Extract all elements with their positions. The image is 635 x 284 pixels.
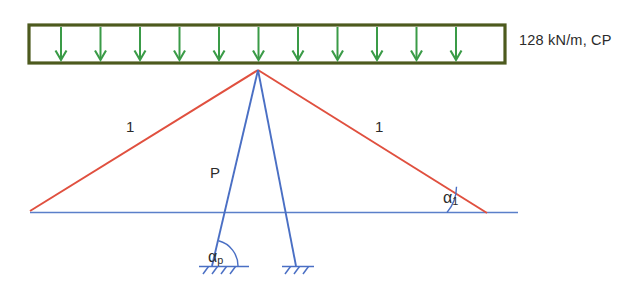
diagram-canvas: 128 kN/m, CP 1 1 P α1 αp (0, 0, 635, 284)
left-cable-length-label: 1 (126, 119, 134, 134)
alpha-1-label: α1 (443, 190, 458, 207)
right-cable-length-label: 1 (375, 119, 383, 134)
alpha-1-symbol: α (443, 189, 452, 206)
left-pin-support-icon (199, 267, 249, 275)
alpha-p-subscript: p (217, 254, 223, 266)
right-post-member (258, 70, 296, 266)
load-box-group (29, 25, 505, 63)
alpha-p-label: αp (208, 249, 223, 266)
alpha-1-subscript: 1 (452, 195, 458, 207)
post-label: P (210, 165, 220, 180)
right-pin-support-icon (282, 267, 314, 275)
load-magnitude-label: 128 kN/m, CP (519, 33, 612, 48)
left-cable-member (30, 70, 258, 211)
alpha-p-symbol: α (208, 248, 217, 265)
